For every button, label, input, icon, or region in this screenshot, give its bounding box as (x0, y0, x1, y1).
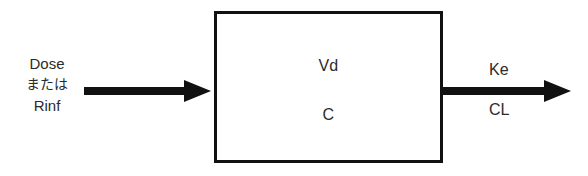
compartment-box: Vd C (214, 11, 443, 163)
input-label-group: Dose または Rinf (8, 53, 86, 116)
clearance-label: CL (489, 102, 509, 118)
elimination-rate-label: Ke (489, 62, 509, 78)
compartment-model-diagram: Dose または Rinf Vd C Ke CL (0, 0, 588, 176)
compartment-volume-label: Vd (217, 58, 440, 74)
input-label-matawa: または (8, 74, 86, 95)
input-arrow-right-icon (84, 78, 212, 104)
input-label-dose: Dose (8, 53, 86, 74)
input-label-rinf: Rinf (8, 95, 86, 116)
compartment-concentration-label: C (217, 107, 440, 123)
